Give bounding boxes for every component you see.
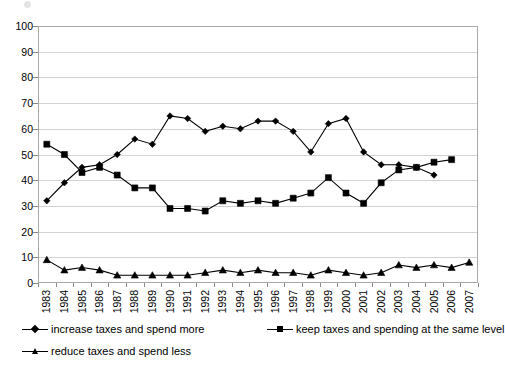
x-tick-mark bbox=[179, 283, 180, 287]
y-tick-label: 100 bbox=[15, 21, 33, 31]
legend-item-increase-taxes[interactable]: increase taxes and spend more bbox=[22, 323, 204, 335]
x-tick-label: 1999 bbox=[323, 290, 334, 313]
x-tick-label: 2004 bbox=[411, 290, 422, 313]
x-tick-mark bbox=[425, 283, 426, 287]
x-tick-mark bbox=[249, 283, 250, 287]
gridline bbox=[39, 77, 477, 78]
x-tick-label: 1998 bbox=[305, 290, 316, 313]
plot-area bbox=[38, 26, 478, 283]
triangle-marker-icon bbox=[22, 345, 48, 357]
x-tick-mark bbox=[302, 283, 303, 287]
x-tick-mark bbox=[232, 283, 233, 287]
x-tick-label: 1987 bbox=[112, 290, 123, 313]
x-tick-label: 1986 bbox=[94, 290, 105, 313]
y-tick-label: 30 bbox=[21, 201, 33, 211]
x-tick-label: 1989 bbox=[147, 290, 158, 313]
x-tick-label: 1993 bbox=[217, 290, 228, 313]
y-tick-label: 90 bbox=[21, 47, 33, 57]
x-tick-mark bbox=[337, 283, 338, 287]
x-tick-mark bbox=[267, 283, 268, 287]
y-tick-label: 40 bbox=[21, 175, 33, 185]
diamond-marker-icon bbox=[22, 323, 48, 335]
x-tick-label: 2002 bbox=[376, 290, 387, 313]
x-tick-mark bbox=[372, 283, 373, 287]
x-tick-label: 1997 bbox=[288, 290, 299, 313]
x-tick-label: 1995 bbox=[253, 290, 264, 313]
y-tick-label: 20 bbox=[21, 227, 33, 237]
gridline bbox=[39, 232, 477, 233]
x-tick-mark bbox=[108, 283, 109, 287]
gridline bbox=[39, 155, 477, 156]
chart-legend: increase taxes and spend more keep taxes… bbox=[22, 323, 492, 365]
x-tick-label: 1985 bbox=[77, 290, 88, 313]
square-marker-icon bbox=[267, 323, 293, 335]
y-tick-label: 70 bbox=[21, 98, 33, 108]
x-tick-label: 2000 bbox=[341, 290, 352, 313]
gridline bbox=[39, 257, 477, 258]
x-tick-mark bbox=[144, 283, 145, 287]
x-tick-label: 1991 bbox=[182, 290, 193, 313]
y-tick-label: 60 bbox=[21, 124, 33, 134]
y-tick-label: 50 bbox=[21, 150, 33, 160]
x-tick-label: 1988 bbox=[129, 290, 140, 313]
gridline bbox=[39, 52, 477, 53]
x-tick-label: 2007 bbox=[464, 290, 475, 313]
x-tick-mark bbox=[284, 283, 285, 287]
gridline bbox=[39, 129, 477, 130]
x-tick-mark bbox=[390, 283, 391, 287]
y-tick-label: 80 bbox=[21, 72, 33, 82]
legend-label: keep taxes and spending at the same leve… bbox=[293, 323, 505, 335]
x-tick-mark bbox=[355, 283, 356, 287]
x-tick-mark bbox=[73, 283, 74, 287]
x-tick-mark bbox=[443, 283, 444, 287]
gridline bbox=[39, 103, 477, 104]
x-tick-mark bbox=[196, 283, 197, 287]
x-tick-mark bbox=[91, 283, 92, 287]
x-tick-mark bbox=[161, 283, 162, 287]
x-tick-label: 1992 bbox=[200, 290, 211, 313]
x-tick-label: 1996 bbox=[270, 290, 281, 313]
x-tick-mark bbox=[214, 283, 215, 287]
legend-item-keep-taxes-same[interactable]: keep taxes and spending at the same leve… bbox=[267, 323, 505, 335]
y-tick-label: 10 bbox=[21, 252, 33, 262]
legend-item-reduce-taxes[interactable]: reduce taxes and spend less bbox=[22, 345, 191, 357]
x-tick-label: 2003 bbox=[393, 290, 404, 313]
x-tick-mark bbox=[460, 283, 461, 287]
x-tick-label: 1983 bbox=[41, 290, 52, 313]
x-tick-label: 2001 bbox=[358, 290, 369, 313]
x-tick-mark bbox=[478, 283, 479, 287]
x-tick-mark bbox=[126, 283, 127, 287]
x-tick-mark bbox=[38, 283, 39, 287]
x-tick-label: 1994 bbox=[235, 290, 246, 313]
legend-label: reduce taxes and spend less bbox=[48, 345, 191, 357]
x-tick-mark bbox=[320, 283, 321, 287]
x-tick-label: 1990 bbox=[165, 290, 176, 313]
legend-label: increase taxes and spend more bbox=[48, 323, 204, 335]
x-tick-label: 2005 bbox=[429, 290, 440, 313]
gridline bbox=[39, 180, 477, 181]
x-tick-mark bbox=[408, 283, 409, 287]
x-tick-label: 1984 bbox=[59, 290, 70, 313]
x-tick-label: 2006 bbox=[446, 290, 457, 313]
gridline bbox=[39, 206, 477, 207]
y-axis: 0102030405060708090100 bbox=[0, 0, 38, 300]
x-tick-mark bbox=[56, 283, 57, 287]
